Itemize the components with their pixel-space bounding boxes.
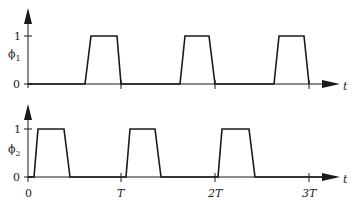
phi2-plot: 1 0 ϕ2 t bbox=[8, 104, 348, 186]
phi1-waveform bbox=[28, 36, 309, 84]
phi1-y-axis-arrow-icon bbox=[24, 8, 32, 24]
phi1-x-axis-arrow-icon bbox=[322, 80, 340, 88]
phi1-plot: 1 0 ϕ1 t bbox=[8, 8, 348, 93]
tick-label-T: T bbox=[117, 187, 126, 200]
phi1-level-1-label: 1 bbox=[14, 30, 21, 43]
time-tick-labels: 0 T 2T 3T bbox=[25, 187, 318, 200]
phi2-level-0-label: 0 bbox=[13, 171, 20, 184]
timing-diagram: 1 0 ϕ1 t 1 0 ϕ2 t 0 T 2T 3T bbox=[0, 0, 356, 208]
phi1-level-0-label: 0 bbox=[13, 78, 20, 91]
phi2-y-axis-arrow-icon bbox=[24, 104, 32, 120]
phi1-t-axis-label: t bbox=[343, 80, 348, 93]
phi2-signal-label: ϕ2 bbox=[8, 143, 21, 158]
tick-label-0: 0 bbox=[25, 187, 32, 200]
phi2-waveform bbox=[28, 129, 326, 177]
phi1-signal-label: ϕ1 bbox=[8, 48, 21, 63]
phi2-level-1-label: 1 bbox=[14, 123, 21, 136]
tick-label-2T: 2T bbox=[207, 187, 224, 200]
tick-label-3T: 3T bbox=[302, 187, 318, 200]
phi2-t-axis-label: t bbox=[343, 173, 348, 186]
